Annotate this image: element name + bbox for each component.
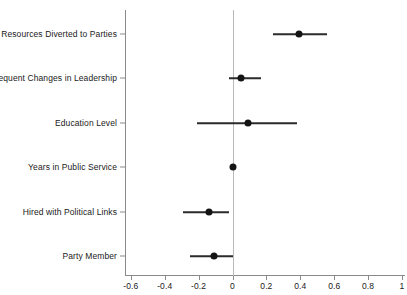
confidence-interval-bar [229, 77, 261, 79]
estimate-point [295, 31, 302, 38]
x-tick-label: 1 [400, 281, 405, 291]
y-tick-mark [120, 256, 125, 257]
y-tick-mark [120, 167, 125, 168]
x-tick-mark [368, 276, 369, 280]
estimate-point [205, 209, 212, 216]
x-tick-label: 0.8 [362, 281, 374, 291]
x-tick-label: 0.6 [328, 281, 340, 291]
coefficient-plot: -0.6-0.4-0.200.20.40.60.81 Resources Div… [0, 0, 407, 295]
x-tick-mark [402, 276, 403, 280]
x-tick-label: 0.2 [260, 281, 272, 291]
category-label-3: Education Level [55, 118, 117, 128]
x-tick-mark [300, 276, 301, 280]
x-tick-label: 0.4 [294, 281, 306, 291]
x-tick-label: -0.4 [157, 281, 172, 291]
y-axis-spine [125, 10, 126, 276]
zero-reference-line [233, 10, 234, 276]
estimate-point [237, 75, 244, 82]
category-label-1: Resources Diverted to Parties [1, 29, 117, 39]
x-tick-mark [165, 276, 166, 280]
category-label-4: Years in Public Service [28, 162, 117, 172]
category-label-6: Party Member [62, 251, 117, 261]
y-tick-mark [120, 212, 125, 213]
x-tick-label: -0.6 [123, 281, 138, 291]
y-tick-mark [120, 123, 125, 124]
plot-area: -0.6-0.4-0.200.20.40.60.81 Resources Div… [0, 0, 407, 295]
y-tick-mark [120, 78, 125, 79]
category-label-2: Frequent Changes in Leadership [0, 73, 117, 83]
x-axis-spine [125, 275, 405, 276]
estimate-point [229, 164, 236, 171]
y-tick-mark [120, 34, 125, 35]
x-tick-mark [266, 276, 267, 280]
x-tick-mark [334, 276, 335, 280]
x-tick-mark [131, 276, 132, 280]
estimate-point [210, 253, 217, 260]
estimate-point [244, 120, 251, 127]
x-tick-mark [199, 276, 200, 280]
category-label-5: Hired with Political Links [23, 207, 117, 217]
x-tick-label: -0.2 [191, 281, 206, 291]
x-tick-mark [233, 276, 234, 280]
x-tick-label: 0 [230, 281, 235, 291]
